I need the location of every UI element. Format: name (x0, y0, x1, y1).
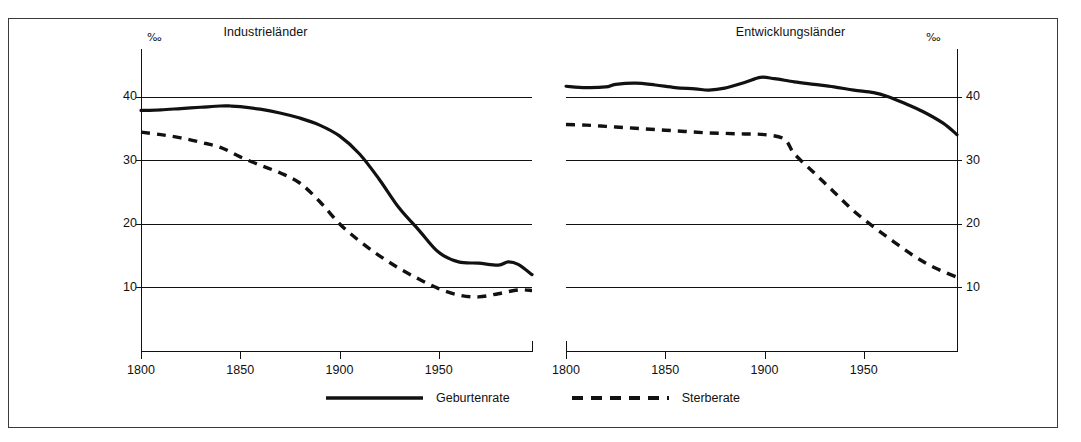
y-label-20-left: 20 (97, 217, 137, 230)
legend-swatch-solid-icon (326, 394, 423, 402)
y-label-20-right: 20 (966, 217, 1006, 230)
x-label-1900-right: 1900 (751, 363, 779, 377)
y-label-10-left: 10 (97, 281, 137, 294)
series-line-sterberate-right (566, 124, 957, 277)
series-line-sterberate-left (141, 132, 532, 297)
x-label-1800-left: 1800 (127, 363, 155, 377)
legend-label-geburtenrate: Geburtenrate (436, 391, 510, 405)
legend-item-geburtenrate: Geburtenrate (326, 391, 510, 405)
chart-figure-frame: Industrieländer ‰ 40 30 20 10 (8, 18, 1058, 428)
series-line-geburtenrate-left (141, 106, 532, 275)
chart-panel-entwicklungslaender: Entwicklungsländer ‰ 40 30 20 10 1800 (534, 19, 1059, 427)
chart-panel-industrielaender: Industrieländer ‰ 40 30 20 10 (9, 19, 534, 427)
legend-swatch-dashed-icon (572, 394, 669, 402)
y-label-30-left: 30 (97, 154, 137, 167)
x-label-1850-right: 1850 (651, 363, 679, 377)
y-label-10-right: 10 (966, 281, 1006, 294)
y-label-40-left: 40 (97, 90, 137, 103)
series-lines-right (566, 41, 957, 353)
legend-item-sterberate: Sterberate (572, 391, 740, 405)
x-label-1900-left: 1900 (326, 363, 354, 377)
plot-area-left: ‰ 40 30 20 10 1800 1850 19 (141, 71, 532, 351)
legend-label-sterberate: Sterberate (682, 391, 740, 405)
plot-area-right: ‰ 40 30 20 10 1800 1850 1900 1950 (566, 71, 957, 351)
y-axis-line-right (957, 49, 958, 351)
chart-legend: Geburtenrate Sterberate (9, 391, 1057, 405)
series-lines-left (141, 41, 532, 353)
x-label-1800-right: 1800 (552, 363, 580, 377)
x-axis-end-cap-left (532, 341, 533, 352)
x-axis-end-cap-right (957, 341, 958, 352)
panel-title-right: Entwicklungsländer (528, 25, 1053, 39)
y-label-40-right: 40 (966, 90, 1006, 103)
y-label-30-right: 30 (966, 154, 1006, 167)
x-label-1950-right: 1950 (850, 363, 878, 377)
panel-title-left: Industrieländer (3, 25, 528, 39)
x-label-1950-left: 1950 (425, 363, 453, 377)
series-line-geburtenrate-right (566, 77, 957, 134)
x-label-1850-left: 1850 (226, 363, 254, 377)
